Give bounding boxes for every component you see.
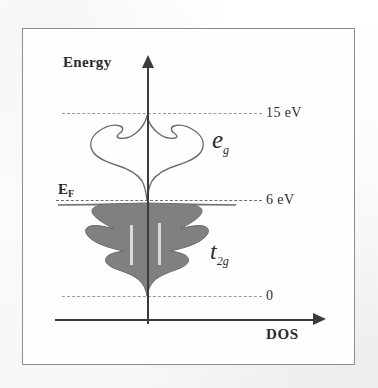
level-line-6ev [56,200,262,201]
energy-axis-line [147,62,149,324]
t2g-band-label: t2g [210,238,229,269]
eg-band-label: eg [212,126,229,158]
t2g-band-symbol: t [210,238,217,264]
eg-band-symbol: e [212,126,223,153]
dos-band-graphics [0,0,378,388]
dos-axis-line [55,319,317,321]
energy-axis-title: Energy [63,54,111,71]
eg-band-subscript: g [223,143,229,157]
level-line-0 [62,296,262,297]
dos-figure: Energy DOS EF 15 eV 6 eV 0 eg t2g [0,0,378,388]
dos-axis-title: DOS [266,326,299,343]
fermi-level-subscript: F [68,188,74,199]
level-line-15ev [62,113,262,114]
fermi-level-symbol: E [58,181,68,197]
band-highlight-right [158,223,161,265]
level-label-6ev: 6 eV [266,192,294,208]
dos-axis-arrowhead [313,313,326,325]
level-label-0: 0 [266,288,273,304]
band-highlight-left [130,225,133,265]
t2g-band-subscript: 2g [217,254,229,268]
fermi-level-label: EF [58,181,74,199]
level-label-15ev: 15 eV [266,105,302,121]
